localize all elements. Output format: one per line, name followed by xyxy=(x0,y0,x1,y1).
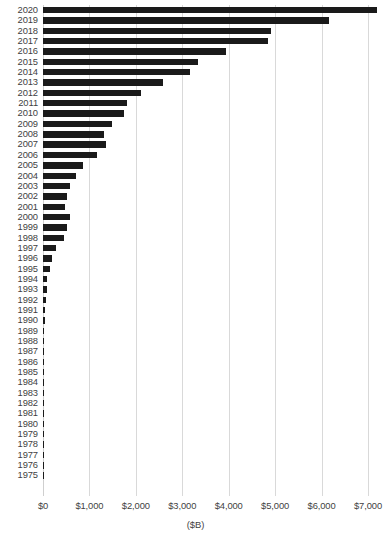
x-tick-label-2000: $2,000 xyxy=(122,500,150,511)
bar-1991 xyxy=(43,307,45,313)
bar-1987 xyxy=(43,348,44,354)
bar-2011 xyxy=(43,100,127,106)
bar-1995 xyxy=(43,266,50,272)
bar-1983 xyxy=(43,390,44,396)
bars-container xyxy=(43,5,383,496)
bar-1978 xyxy=(43,441,44,447)
x-axis-tick-labels: $0$1,000$2,000$3,000$4,000$5,000$6,000$7… xyxy=(0,500,391,516)
bar-1996 xyxy=(43,255,52,261)
bar-2005 xyxy=(43,162,83,168)
bar-1984 xyxy=(43,379,44,385)
bar-row xyxy=(43,119,383,129)
bar-2006 xyxy=(43,152,97,158)
bar-row xyxy=(43,429,383,439)
bar-2013 xyxy=(43,79,163,85)
bar-row xyxy=(43,181,383,191)
bar-row xyxy=(43,222,383,232)
bar-2003 xyxy=(43,183,70,189)
bar-row xyxy=(43,253,383,263)
bar-2015 xyxy=(43,59,198,65)
bar-row xyxy=(43,98,383,108)
bar-2001 xyxy=(43,204,65,210)
bar-row xyxy=(43,295,383,305)
bar-2014 xyxy=(43,69,190,75)
bar-1998 xyxy=(43,235,64,241)
bar-chart: 2020201920182017201620152014201320122011… xyxy=(0,0,391,541)
bar-row xyxy=(43,202,383,212)
bar-1975 xyxy=(43,472,44,478)
bar-row xyxy=(43,129,383,139)
bar-1977 xyxy=(43,452,44,458)
bar-1997 xyxy=(43,245,56,251)
bar-row xyxy=(43,26,383,36)
bar-2002 xyxy=(43,193,67,199)
bar-row xyxy=(43,191,383,201)
bar-row xyxy=(43,336,383,346)
bar-row xyxy=(43,470,383,480)
bar-row xyxy=(43,305,383,315)
plot-area xyxy=(43,5,383,496)
bar-row xyxy=(43,408,383,418)
bar-row xyxy=(43,171,383,181)
bar-1988 xyxy=(43,338,44,344)
bar-row xyxy=(43,460,383,470)
y-tick-label-1999: 1999 xyxy=(0,222,38,232)
bar-row xyxy=(43,264,383,274)
bar-2018 xyxy=(43,28,271,34)
bar-2008 xyxy=(43,131,104,137)
bar-1979 xyxy=(43,431,44,437)
bar-row xyxy=(43,15,383,25)
bar-1985 xyxy=(43,369,44,375)
bar-2000 xyxy=(43,214,70,220)
x-tick-label-1000: $1,000 xyxy=(75,500,103,511)
x-tick-label-6000: $6,000 xyxy=(308,500,336,511)
bar-row xyxy=(43,57,383,67)
bar-row xyxy=(43,419,383,429)
bar-1982 xyxy=(43,400,44,406)
bar-row xyxy=(43,46,383,56)
bar-row xyxy=(43,88,383,98)
bar-1981 xyxy=(43,410,44,416)
bar-row xyxy=(43,77,383,87)
bar-1976 xyxy=(43,462,44,468)
y-tick-label-1975: 1975 xyxy=(0,470,38,480)
bar-2016 xyxy=(43,48,226,54)
bar-row xyxy=(43,346,383,356)
bar-1986 xyxy=(43,359,44,365)
bar-row xyxy=(43,243,383,253)
bar-row xyxy=(43,139,383,149)
bar-2012 xyxy=(43,90,141,96)
bar-row xyxy=(43,357,383,367)
bar-2019 xyxy=(43,17,329,23)
bar-row xyxy=(43,274,383,284)
x-tick-label-0: $0 xyxy=(38,500,48,511)
x-tick-label-4000: $4,000 xyxy=(215,500,243,511)
bar-1990 xyxy=(43,317,45,323)
bar-row xyxy=(43,388,383,398)
x-axis-title-text: ($B) xyxy=(187,519,205,530)
bar-2017 xyxy=(43,38,268,44)
bar-row xyxy=(43,67,383,77)
bar-2009 xyxy=(43,121,112,127)
bar-row xyxy=(43,326,383,336)
bar-row xyxy=(43,377,383,387)
bar-row xyxy=(43,398,383,408)
bar-row xyxy=(43,160,383,170)
bar-row xyxy=(43,36,383,46)
bar-2004 xyxy=(43,173,76,179)
bar-row xyxy=(43,367,383,377)
y-tick-label-2005: 2005 xyxy=(0,160,38,170)
bar-2020 xyxy=(43,7,377,13)
bar-row xyxy=(43,233,383,243)
bar-1989 xyxy=(43,328,44,334)
bar-row xyxy=(43,150,383,160)
bar-row xyxy=(43,315,383,325)
bar-1992 xyxy=(43,297,46,303)
x-axis-title: ($B) xyxy=(0,519,391,530)
bar-1994 xyxy=(43,276,47,282)
bar-2010 xyxy=(43,110,124,116)
x-tick-label-3000: $3,000 xyxy=(168,500,196,511)
bar-row xyxy=(43,284,383,294)
bar-row xyxy=(43,108,383,118)
x-tick-label-7000: $7,000 xyxy=(354,500,382,511)
